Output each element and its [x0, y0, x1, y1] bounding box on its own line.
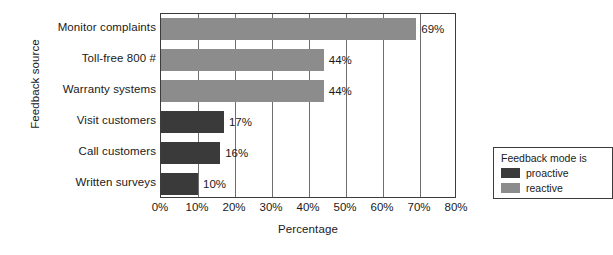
legend-item-reactive: reactive	[501, 181, 606, 195]
bar	[161, 142, 220, 164]
category-label: Monitor complaints	[22, 21, 156, 33]
legend-swatch-proactive	[501, 168, 520, 178]
plot-area: 69%44%44%17%16%10% Feedback mode is proa…	[160, 13, 456, 198]
legend-item-proactive: proactive	[501, 166, 606, 180]
bar	[161, 49, 324, 71]
x-tick-label: 60%	[370, 201, 393, 213]
x-tick-label: 50%	[333, 201, 356, 213]
category-axis-labels: Monitor complaintsToll-free 800 #Warrant…	[22, 13, 156, 198]
x-tick-label: 10%	[185, 201, 208, 213]
category-label: Written surveys	[22, 176, 156, 188]
bar-value-label: 44%	[329, 86, 352, 98]
bar	[161, 18, 416, 40]
bar	[161, 111, 224, 133]
bar-value-label: 10%	[203, 179, 226, 191]
x-tick-label: 0%	[152, 201, 169, 213]
x-axis-title: Percentage	[160, 223, 456, 235]
category-label: Toll-free 800 #	[22, 52, 156, 64]
category-label: Visit customers	[22, 114, 156, 126]
bars-layer: 69%44%44%17%16%10%	[161, 14, 455, 197]
x-axis-tick-labels: 0%10%20%30%40%50%60%70%80%	[160, 201, 456, 217]
bar-value-label: 44%	[329, 55, 352, 67]
x-tick-label: 40%	[296, 201, 319, 213]
legend-label-proactive: proactive	[526, 168, 569, 179]
x-tick-label: 30%	[259, 201, 282, 213]
legend: Feedback mode is proactive reactive	[493, 147, 613, 199]
bar	[161, 80, 324, 102]
category-label: Warranty systems	[22, 83, 156, 95]
legend-swatch-reactive	[501, 183, 520, 193]
x-tick-label: 80%	[444, 201, 467, 213]
bar-value-label: 69%	[421, 24, 444, 36]
bar-value-label: 16%	[225, 148, 248, 160]
legend-title: Feedback mode is	[501, 152, 606, 165]
x-tick-label: 70%	[407, 201, 430, 213]
bar-value-label: 17%	[229, 117, 252, 129]
category-label: Call customers	[22, 145, 156, 157]
bar	[161, 173, 198, 195]
x-tick-label: 20%	[222, 201, 245, 213]
legend-label-reactive: reactive	[526, 183, 563, 194]
